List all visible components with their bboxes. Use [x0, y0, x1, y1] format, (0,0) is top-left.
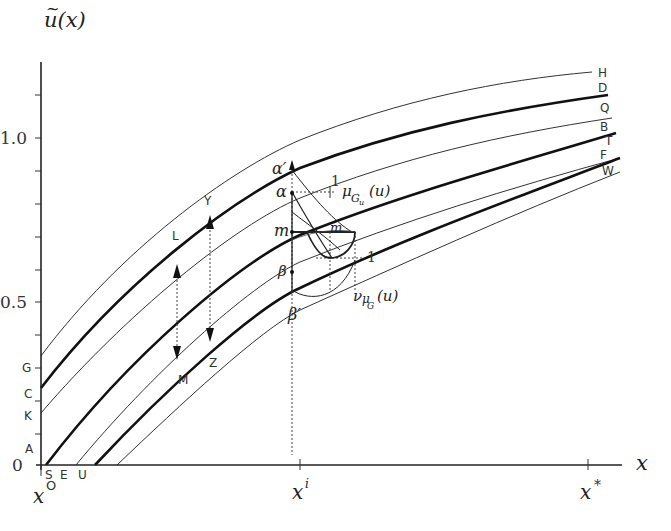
nu-label-sub: G — [367, 301, 374, 311]
arrow-down-icon — [173, 346, 181, 360]
label-T: T — [604, 134, 613, 148]
x-axis-label: x — [636, 451, 648, 475]
label-m: m — [274, 221, 289, 240]
label-Z: Z — [209, 356, 217, 370]
curve-T — [76, 158, 620, 465]
x-tick-sup-origin: O — [46, 478, 56, 493]
label-K: K — [24, 409, 33, 423]
nu-label-arg: (u) — [377, 287, 399, 305]
label-alpha: α — [276, 182, 287, 201]
label-A: A — [25, 442, 34, 456]
x-tick-label-xi: x — [292, 480, 303, 504]
x-tick-label-origin: x — [33, 484, 44, 508]
label-Y: Y — [203, 194, 212, 208]
alpha-prime-marker-icon — [289, 160, 295, 170]
label-E: E — [60, 468, 68, 482]
beta-point — [290, 270, 294, 274]
label-beta-prime: β′ — [287, 305, 301, 324]
curve-D — [41, 95, 608, 388]
curve-W — [117, 172, 620, 465]
y-tick-label-1.0: 1.0 — [0, 128, 27, 148]
alpha-point — [290, 191, 294, 195]
fuzzy-utility-diagram: ~ u(x) x 1.0 0.5 0 G C K A S E U x O x i… — [0, 0, 671, 531]
label-L: L — [172, 229, 179, 243]
label-beta: β — [277, 262, 287, 280]
y-axis-label: u(x) — [44, 8, 86, 32]
y-tick-label-0.5: 0.5 — [0, 292, 27, 312]
arrow-up-icon — [173, 264, 181, 278]
label-Q: Q — [600, 101, 609, 115]
label-C: C — [24, 387, 32, 401]
label-alpha-prime: α′ — [272, 159, 287, 178]
curve-Q — [41, 118, 612, 413]
label-W: W — [602, 164, 614, 178]
curve-H — [41, 72, 592, 356]
label-one-bottom: 1 — [367, 249, 376, 265]
label-m-tilde: m — [330, 220, 342, 235]
mu-label-subsub: u — [359, 198, 364, 207]
axes — [35, 62, 622, 476]
x-tick-sup-xi: i — [305, 477, 309, 491]
m-point — [290, 230, 294, 234]
label-U: U — [78, 468, 87, 482]
arrow-down-icon — [206, 328, 214, 342]
x-tick-sup-xstar: * — [594, 477, 601, 493]
label-B: B — [600, 120, 608, 134]
label-M: M — [178, 373, 188, 387]
nu-curve-bowl — [307, 232, 355, 258]
x-tick-label-xstar: x — [580, 480, 591, 504]
label-F: F — [600, 148, 607, 162]
label-one-top: 1 — [331, 173, 340, 189]
y-tick-label-0: 0 — [12, 455, 23, 475]
label-H: H — [598, 66, 607, 80]
nu-label-main: ν — [353, 287, 362, 305]
mu-curve-upper — [292, 170, 352, 232]
label-G: G — [22, 361, 31, 375]
mu-label-arg: (u) — [369, 182, 391, 200]
label-D: D — [598, 81, 607, 95]
